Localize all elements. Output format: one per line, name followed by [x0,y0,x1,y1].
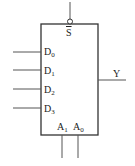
mux-block [41,24,98,135]
enable-label: S [66,28,72,38]
select-label-a1: A1 [57,122,68,132]
select-label-a0: A0 [73,122,84,132]
input-label-d3: D3 [44,104,55,114]
input-label-d0: D0 [44,47,55,57]
input-label-d2-sub: 2 [51,89,55,97]
input-label-d1: D1 [44,66,55,76]
select-label-a1-sub: 1 [64,126,68,134]
input-label-d0-sub: 0 [51,51,55,59]
input-label-d1-sub: 1 [51,70,55,78]
enable-inversion-bubble [68,19,73,24]
select-label-a0-sub: 0 [80,126,84,134]
input-label-d2: D2 [44,85,55,95]
output-label-y: Y [113,69,120,79]
input-label-d3-sub: 3 [51,108,55,116]
multiplexer-diagram [0,0,135,166]
